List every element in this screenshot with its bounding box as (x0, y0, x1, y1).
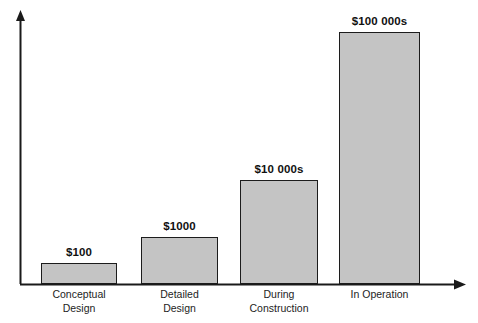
bar-category-line: Design (52, 302, 105, 316)
plot-area: $100 Conceptual Design $1000 Detailed De… (0, 0, 478, 323)
bar-rect (141, 237, 218, 284)
bar-category-line: Detailed (160, 288, 199, 302)
bar-rect (339, 32, 420, 284)
bar-chart-figure: $100 Conceptual Design $1000 Detailed De… (0, 0, 478, 323)
bar-group: $1000 (141, 199, 218, 284)
bar-category-label: Conceptual Design (52, 288, 105, 315)
bar-group: $10 000s (240, 142, 318, 284)
bar-category-label: In Operation (351, 288, 409, 302)
bar-category-line: Construction (250, 302, 309, 316)
bar-category-line: In Operation (351, 288, 409, 302)
bar-rect (240, 180, 318, 284)
bar-category-line: During (250, 288, 309, 302)
bar-group: $100 000s (339, 0, 420, 284)
bar-category-line: Design (160, 302, 199, 316)
bar-value-label: $10 000s (255, 163, 304, 176)
bar-value-label: $1000 (163, 220, 195, 233)
bar-category-line: Conceptual (52, 288, 105, 302)
bar-value-label: $100 000s (352, 15, 407, 28)
bar-category-label: During Construction (250, 288, 309, 315)
bar-rect (41, 263, 117, 284)
bar-category-label: Detailed Design (160, 288, 199, 315)
bar-value-label: $100 (66, 246, 92, 259)
bar-group: $100 (41, 224, 117, 284)
